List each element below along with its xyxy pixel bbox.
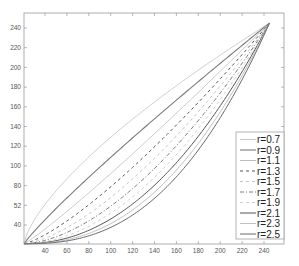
legend-label: r=0.9: [257, 145, 281, 156]
x-tick-label: 60: [63, 247, 71, 254]
y-tick-label: 100: [10, 162, 21, 169]
x-tick-label: 220: [237, 247, 248, 254]
x-tick-label: 180: [193, 247, 204, 254]
legend-label: r=1.9: [257, 197, 281, 208]
y-tick-label: 200: [10, 64, 21, 71]
y-tick-label: 180: [10, 83, 21, 90]
legend: r=0.7r=0.9r=1.1r=1.3r=1.5r=1.7r=1.9r=2.1…: [236, 132, 284, 240]
x-tick-label: 140: [149, 247, 160, 254]
x-tick-label: 80: [85, 247, 93, 254]
y-tick-label: 52: [14, 202, 22, 209]
x-tick-label: 120: [127, 247, 138, 254]
legend-label: r=2.1: [257, 208, 281, 219]
y-tick-label: 240: [10, 24, 21, 31]
x-tick-label: 40: [41, 247, 49, 254]
y-tick-label: 220: [10, 44, 21, 51]
legend-label: r=2.5: [257, 229, 281, 240]
x-tick-label: 160: [171, 247, 182, 254]
legend-label: r=1.1: [257, 155, 281, 166]
legend-label: r=0.7: [257, 134, 281, 145]
legend-label: r=1.7: [257, 187, 281, 198]
y-tick-label: 140: [10, 123, 21, 130]
y-tick-label: 120: [10, 142, 21, 149]
legend-label: r=1.5: [257, 176, 281, 187]
y-tick-label: 160: [10, 103, 21, 110]
x-tick-label: 100: [105, 247, 116, 254]
legend-label: r=2.3: [257, 218, 281, 229]
y-tick-label: 80: [14, 182, 22, 189]
legend-label: r=1.3: [257, 166, 281, 177]
x-tick-label: 200: [215, 247, 226, 254]
y-tick-label: 40: [14, 221, 22, 228]
x-tick-label: 240: [259, 247, 270, 254]
line-chart: 406080100120140160180200220240 405280100…: [0, 0, 299, 266]
